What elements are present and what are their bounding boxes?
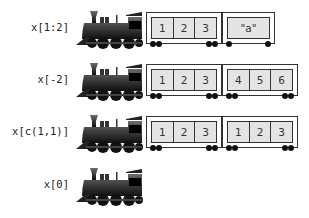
subset-expression-label: x[-2] [37,73,69,85]
wheel-icon [156,93,162,99]
train-row: x[0] [0,166,309,210]
engine [76,9,144,51]
wheel-icon [265,41,271,47]
car-cells: 123 [227,121,293,143]
vector-element: 2 [174,18,196,38]
wheel-icon [156,145,162,151]
vector-element: 3 [195,70,216,90]
vector-element: 3 [271,122,292,142]
locomotive-icon [76,9,144,51]
wheel-icon [212,41,218,47]
car-cells: 123 [151,121,217,143]
subset-expression-label: x[1:2] [31,21,69,33]
vector-element: 3 [195,122,216,142]
vector-element: 1 [152,18,174,38]
vector-element: 6 [271,70,292,90]
car-cells: 123 [151,17,217,39]
train-car: 123 [146,116,222,148]
train-car: 123 [146,64,222,96]
vector-element: 4 [228,70,250,90]
vector-element: 1 [228,122,250,142]
wheel-icon [288,145,294,151]
wheel-icon [288,93,294,99]
wheel-icon [232,93,238,99]
vector-element: "a" [228,18,269,38]
vector-element: 3 [195,18,216,38]
engine [76,61,144,103]
train-row: x[1:2] 123"a" [0,9,309,53]
car-cells: 456 [227,69,293,91]
vector-element: 1 [152,122,174,142]
locomotive-icon [76,61,144,103]
car-cells: 123 [151,69,217,91]
engine [76,166,144,208]
train-car: 456 [222,64,298,96]
wheel-icon [212,93,218,99]
subset-expression-label: x[c(1,1)] [12,125,69,137]
wheel-icon [156,41,162,47]
vector-element: 1 [152,70,174,90]
wheel-icon [212,145,218,151]
subset-expression-label: x[0] [44,178,69,190]
vector-element: 2 [174,122,196,142]
car-cells: "a" [227,17,270,39]
engine [76,113,144,155]
train-row: x[c(1,1)] 123123 [0,113,309,157]
vector-element: 2 [174,70,196,90]
vector-element: 5 [250,70,272,90]
train-car: 123 [146,12,222,44]
train-car: "a" [222,12,275,44]
wheel-icon [226,41,232,47]
train-car: 123 [222,116,298,148]
vector-element: 2 [250,122,272,142]
train-row: x[-2] 123456 [0,61,309,105]
wheel-icon [232,145,238,151]
locomotive-icon [76,113,144,155]
locomotive-icon [76,166,144,208]
